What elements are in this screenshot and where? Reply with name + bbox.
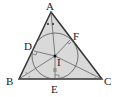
label-a: A: [46, 0, 54, 12]
label-e: E: [51, 83, 58, 95]
label-c: C: [104, 75, 111, 87]
angle-mark-b2: ×: [28, 74, 30, 79]
angle-mark-b1: ×: [25, 70, 27, 75]
label-d: D: [24, 40, 32, 52]
label-i: I: [57, 56, 61, 68]
label-f: F: [73, 30, 79, 42]
angle-mark-a2: [52, 23, 54, 25]
label-b: B: [6, 75, 13, 87]
incircle-diagram: × × ○ ○ A B C D E F I: [0, 0, 120, 97]
angle-mark-a1: [47, 23, 49, 25]
